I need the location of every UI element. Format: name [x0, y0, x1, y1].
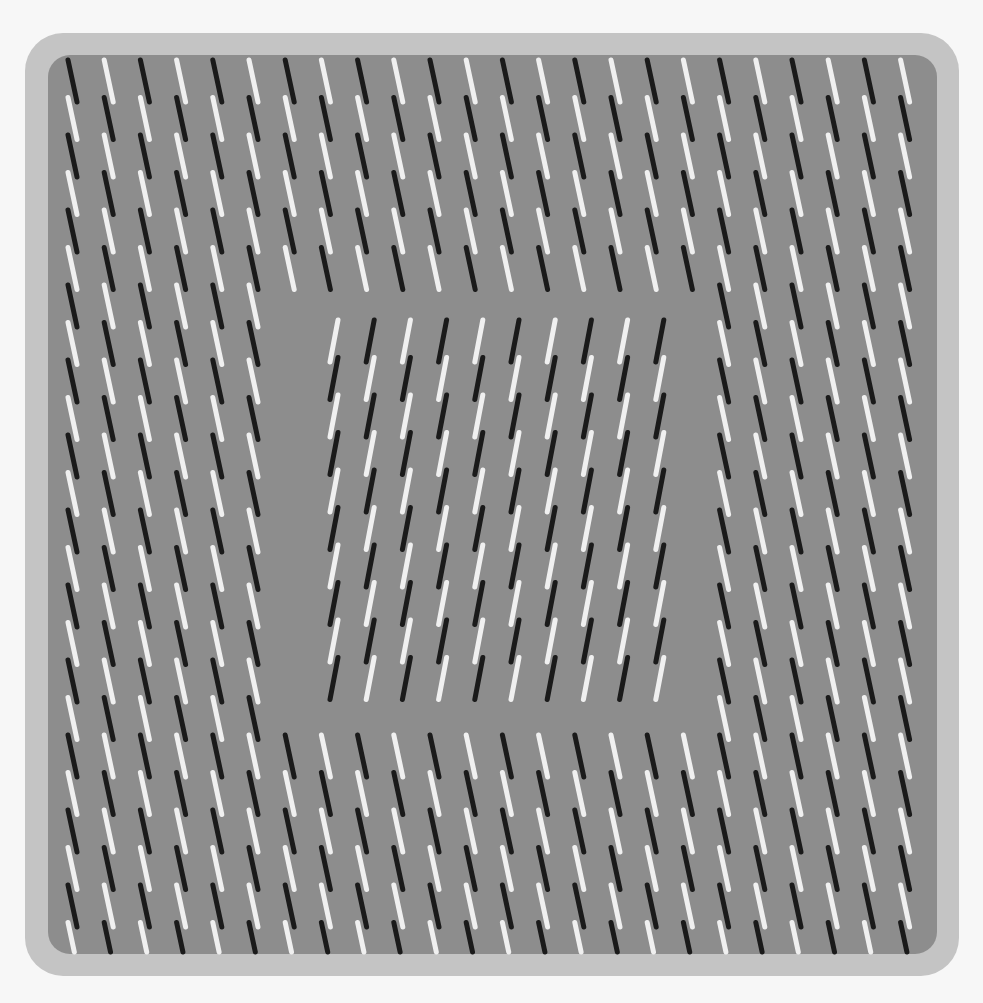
line-segment-pattern — [0, 0, 983, 1003]
line-segment — [756, 923, 762, 953]
line-segment — [611, 923, 617, 953]
line-segment — [720, 923, 726, 953]
line-segment — [828, 923, 834, 953]
outer-segment-grid — [68, 60, 910, 952]
line-segment — [575, 923, 581, 953]
line-segment — [683, 923, 689, 953]
line-segment — [140, 923, 146, 953]
line-segment — [104, 923, 110, 953]
line-segment — [249, 923, 255, 953]
line-segment — [213, 923, 219, 953]
line-segment — [321, 923, 327, 953]
line-segment — [177, 923, 183, 953]
line-segment — [466, 923, 472, 953]
line-segment — [502, 923, 508, 953]
line-segment — [647, 923, 653, 953]
line-segment — [792, 923, 798, 953]
line-segment — [285, 923, 291, 953]
inner-segment-square — [330, 320, 664, 700]
line-segment — [394, 923, 400, 953]
line-segment — [539, 923, 545, 953]
line-segment — [901, 923, 907, 953]
line-segment — [430, 923, 436, 953]
line-segment — [358, 923, 364, 953]
line-segment — [68, 923, 74, 953]
line-segment — [864, 923, 870, 953]
